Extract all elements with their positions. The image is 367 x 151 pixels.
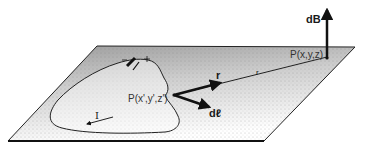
field-point-dot [325, 56, 328, 59]
field-point-label: P(x,y,z) [290, 50, 323, 60]
unit-vector-label: r [216, 70, 220, 81]
current-label: I [95, 111, 99, 121]
source-point-dot [172, 93, 175, 96]
position-vector-label: r [256, 69, 259, 77]
field-element-label: dB [306, 14, 321, 25]
source-point-label: P(x',y',z') [128, 94, 168, 104]
current-element-label: dℓ [209, 108, 221, 119]
